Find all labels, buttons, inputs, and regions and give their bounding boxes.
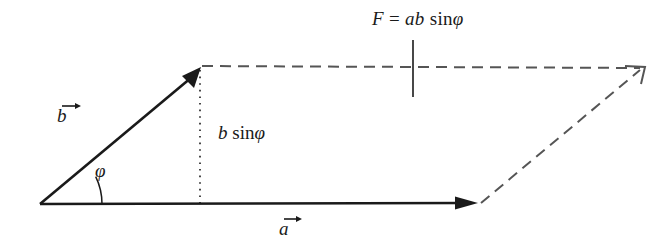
vector-a-label: a	[279, 218, 289, 240]
force-label: F = ab sinφ	[372, 8, 464, 30]
force-label-ab: ab	[405, 8, 425, 29]
figure-background	[0, 0, 669, 248]
angle-label-phi: φ	[95, 160, 106, 182]
height-label: b sinφ	[218, 122, 265, 144]
vector-parallelogram-figure	[0, 0, 669, 248]
force-label-sin: sin	[425, 8, 453, 29]
vector-a-shaft	[40, 203, 466, 204]
force-label-phi: φ	[453, 8, 464, 29]
height-label-b: b	[218, 122, 228, 143]
vector-b-label: b	[57, 105, 67, 127]
force-label-F: F	[372, 8, 384, 29]
height-label-sin: sin	[228, 122, 255, 143]
height-label-phi: φ	[254, 122, 265, 143]
force-label-equals: =	[384, 8, 405, 29]
